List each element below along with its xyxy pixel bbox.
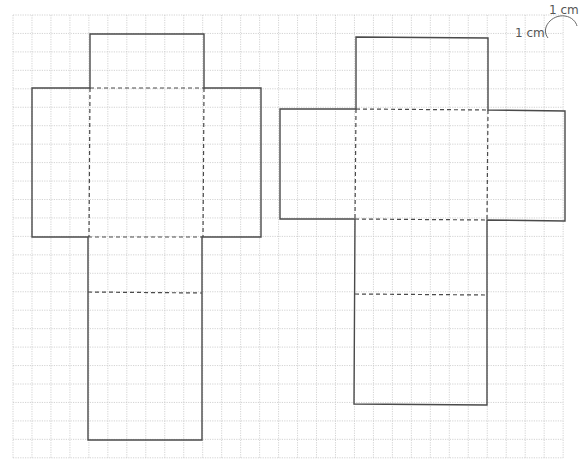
squared-paper-diagram: 1 cm 1 cm: [0, 0, 585, 468]
net-b: [280, 37, 565, 405]
scale-indicator: 1 cm 1 cm: [515, 3, 579, 40]
net-b-fold-middle: [355, 219, 487, 220]
scale-arc-icon: [545, 16, 577, 38]
net-a: [32, 34, 261, 440]
scale-label-horizontal: 1 cm: [515, 26, 545, 40]
net-a-fold-lower: [88, 292, 202, 293]
net-b-outline: [280, 37, 565, 405]
net-b-fold-left: [355, 109, 356, 219]
net-b-fold-lower: [355, 294, 487, 295]
scale-label-vertical: 1 cm: [549, 3, 579, 17]
